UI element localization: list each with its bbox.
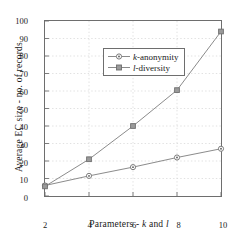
chart-legend: k-anonymity l-diversity [103, 48, 185, 76]
y-tick-label: 30 [0, 140, 28, 150]
y-tick-label: 50 [0, 105, 28, 115]
plot-area: 0102030405060708090100246810 k-anonymity… [44, 20, 222, 197]
x-tick-label: 6 [122, 220, 146, 230]
legend-marker-k-anonymity [107, 51, 131, 62]
y-tick-label: 0 [0, 193, 28, 203]
chart-figure: Average EC size - no. of records Paramet… [0, 0, 234, 241]
legend-label-k-anonymity: k-anonymity [131, 52, 179, 62]
x-tick-label: 4 [78, 220, 102, 230]
x-tick-label: 10 [211, 220, 234, 230]
legend-item-k-anonymity: k-anonymity [107, 51, 179, 62]
y-tick-label: 60 [0, 87, 28, 97]
y-tick-label: 70 [0, 69, 28, 79]
x-tick-label: 2 [33, 220, 57, 230]
y-tick-label: 20 [0, 158, 28, 168]
x-axis-title-mid: and [146, 219, 165, 229]
legend-label-l-diversity: l-diversity [131, 63, 170, 73]
y-tick-label: 90 [0, 34, 28, 44]
y-tick-label: 100 [0, 16, 28, 26]
y-tick-label: 80 [0, 51, 28, 61]
y-tick-label: 40 [0, 122, 28, 132]
legend-item-l-diversity: l-diversity [107, 62, 179, 73]
y-tick-label: 10 [0, 175, 28, 185]
x-tick-label: 8 [167, 220, 191, 230]
legend-marker-l-diversity [107, 62, 131, 73]
